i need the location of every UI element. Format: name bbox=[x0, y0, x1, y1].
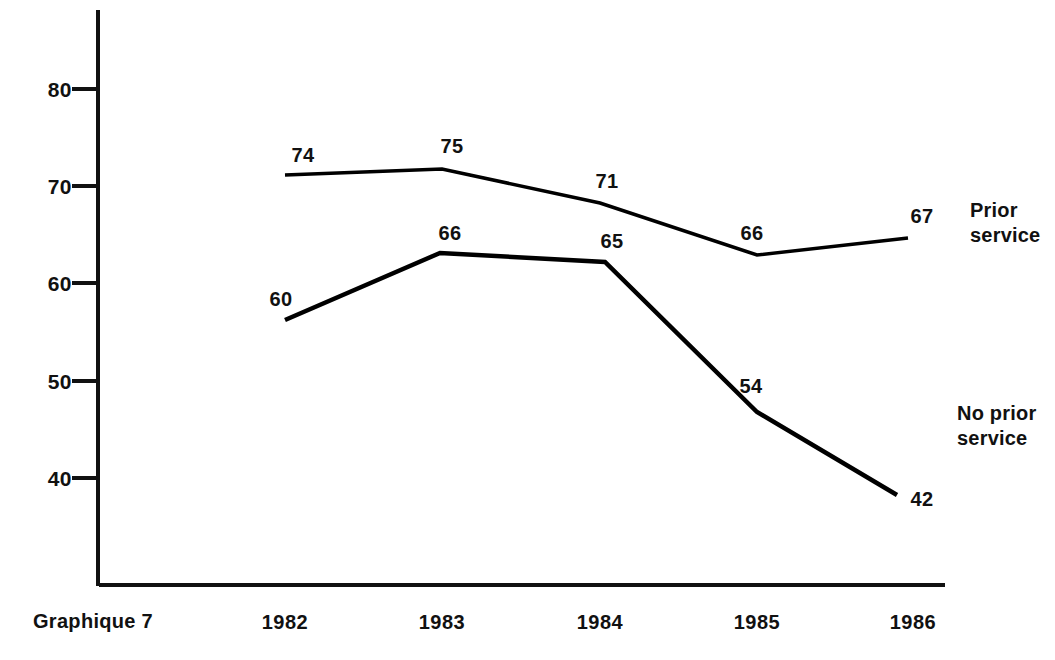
data-label-prior-service-1986: 67 bbox=[900, 205, 944, 228]
chart-figure: 80 70 60 50 40 1982 1983 1984 1985 1986 … bbox=[0, 0, 1055, 660]
legend-label-prior-service: Prior service bbox=[970, 198, 1040, 248]
y-axis-tick-label-60: 60 bbox=[20, 272, 72, 296]
y-axis-tick-label-50: 50 bbox=[20, 370, 72, 394]
x-axis-tick-label-1982: 1982 bbox=[240, 611, 330, 634]
x-axis-tick-label-1986: 1986 bbox=[868, 611, 958, 634]
data-label-no-prior-service-1982: 60 bbox=[259, 288, 303, 311]
data-label-prior-service-1983: 75 bbox=[430, 135, 474, 158]
figure-caption: Graphique 7 bbox=[33, 610, 153, 633]
x-axis-tick-label-1985: 1985 bbox=[712, 611, 802, 634]
chart-plot-area bbox=[0, 0, 1055, 660]
data-label-prior-service-1982: 74 bbox=[281, 144, 325, 167]
data-label-prior-service-1985: 66 bbox=[730, 222, 774, 245]
x-axis-tick-label-1984: 1984 bbox=[555, 611, 645, 634]
data-label-prior-service-1984: 71 bbox=[585, 170, 629, 193]
data-label-no-prior-service-1985: 54 bbox=[729, 375, 773, 398]
legend-label-no-prior-service: No prior service bbox=[957, 401, 1036, 451]
y-axis-tick-label-70: 70 bbox=[20, 175, 72, 199]
y-axis-tick-label-80: 80 bbox=[20, 78, 72, 102]
series-line-no-prior-service bbox=[285, 253, 897, 495]
x-axis-tick-label-1983: 1983 bbox=[397, 611, 487, 634]
data-label-no-prior-service-1984: 65 bbox=[590, 230, 634, 253]
data-label-no-prior-service-1983: 66 bbox=[428, 222, 472, 245]
y-axis-tick-label-40: 40 bbox=[20, 467, 72, 491]
data-label-no-prior-service-1986: 42 bbox=[900, 488, 944, 511]
